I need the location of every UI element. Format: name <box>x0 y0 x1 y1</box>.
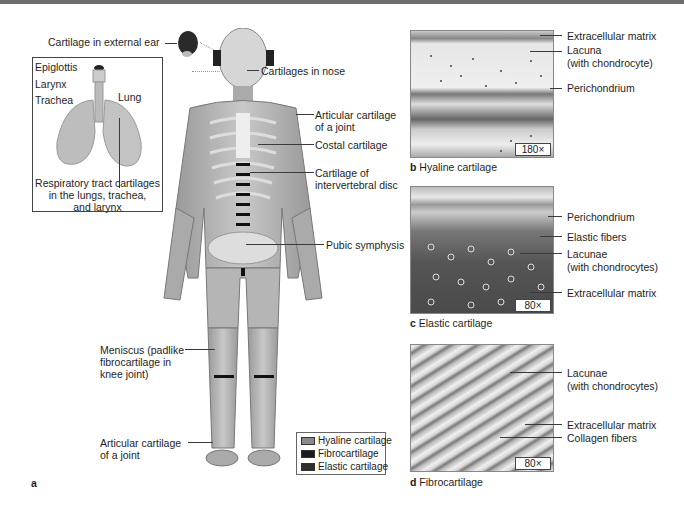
label-elastic-lacunae: Lacunae <box>567 248 607 261</box>
label-epiglottis: Epiglottis <box>35 61 78 74</box>
magnification-fibrocartilage: 80× <box>515 457 551 470</box>
micrograph-hyaline: 180× <box>410 30 554 158</box>
inset-caption-line2: in the lungs, trachea, <box>33 189 162 202</box>
caption-panel-c: c Elastic cartilage <box>410 317 492 329</box>
leader-hyaline-ecm <box>540 35 562 36</box>
leader-nose <box>247 70 259 71</box>
label-hyaline-perichondrium: Perichondrium <box>567 82 635 95</box>
inset-caption-line1: Respiratory tract cartilages <box>33 177 162 190</box>
leader-articular-upper <box>296 114 314 115</box>
label-larynx: Larynx <box>35 78 67 91</box>
micrograph-fibrocartilage: 80× <box>410 344 554 472</box>
caption-panel-b: b Hyaline cartilage <box>410 161 497 173</box>
legend-item-hyaline: Hyaline cartilage <box>301 435 392 447</box>
label-lung: Lung <box>118 91 141 104</box>
label-meniscus-3: knee joint) <box>100 368 148 381</box>
elastic-texture <box>411 187 554 314</box>
leader-articular-lower <box>188 442 213 443</box>
label-nose: Cartilages in nose <box>261 65 345 78</box>
leader-intervertebral <box>250 172 314 173</box>
label-elastic-ecm: Extracellular matrix <box>567 287 656 300</box>
label-articular-upper-2: of a joint <box>315 121 355 134</box>
leader-hyaline-lacuna <box>530 51 562 52</box>
swatch-elastic <box>301 463 315 471</box>
label-elastic-fibers: Elastic fibers <box>567 231 627 244</box>
label-elastic-lacunae-2: (with chondrocytes) <box>567 261 658 274</box>
label-hyaline-lacuna-2: (with chondrocyte) <box>567 57 653 70</box>
label-intervertebral-1: Cartilage of <box>315 167 369 180</box>
label-articular-lower-2: of a joint <box>100 449 140 462</box>
label-articular-upper-1: Articular cartilage <box>315 109 396 122</box>
inset-caption-line3: and larynx <box>33 201 162 214</box>
legend-item-elastic: Elastic cartilage <box>301 461 388 473</box>
label-fibro-collagen: Collagen fibers <box>567 432 637 445</box>
label-hyaline-ecm: Extracellular matrix <box>567 30 656 43</box>
caption-panel-d: d Fibrocartilage <box>410 476 483 488</box>
respiratory-inset: Epiglottis Larynx Trachea Lung Respirato… <box>32 57 163 212</box>
magnification-elastic: 80× <box>515 299 551 312</box>
micrograph-elastic: 80× <box>410 186 554 314</box>
leader-fibro-lacunae <box>510 372 562 373</box>
human-body-skeleton-illustration <box>150 28 350 473</box>
leader-elastic-perichondrium <box>548 216 562 217</box>
label-fibro-lacunae: Lacunae <box>567 367 607 380</box>
label-articular-lower-1: Articular cartilage <box>100 437 181 450</box>
leader-elastic-lacunae <box>520 253 562 254</box>
label-meniscus-1: Meniscus (padlike <box>100 344 184 357</box>
label-external-ear: Cartilage in external ear <box>48 36 159 49</box>
label-costal: Costal cartilage <box>315 139 387 152</box>
leader-pubic <box>246 244 324 245</box>
label-hyaline-lacuna: Lacuna <box>567 44 601 57</box>
legend-item-fibro: Fibrocartilage <box>301 448 379 460</box>
legend: Hyaline cartilage Fibrocartilage Elastic… <box>296 432 386 475</box>
panel-a-letter: a <box>31 477 37 489</box>
leader-fibro-collagen <box>500 437 562 438</box>
label-trachea: Trachea <box>35 94 73 107</box>
label-pubic: Pubic symphysis <box>326 239 404 252</box>
leader-costal <box>258 144 314 145</box>
label-meniscus-2: fibrocartilage in <box>100 356 171 369</box>
top-border <box>0 0 684 4</box>
magnification-hyaline: 180× <box>515 143 551 156</box>
leader-meniscus <box>185 349 215 350</box>
swatch-hyaline <box>301 437 315 445</box>
label-intervertebral-2: intervertebral disc <box>315 179 398 192</box>
leader-elastic-fibers <box>540 236 562 237</box>
leader-elastic-ecm <box>530 292 562 293</box>
swatch-fibro <box>301 450 315 458</box>
label-elastic-perichondrium: Perichondrium <box>567 211 635 224</box>
label-fibro-lacunae-2: (with chondrocytes) <box>567 380 658 393</box>
leader-fibro-ecm <box>525 424 562 425</box>
label-fibro-ecm: Extracellular matrix <box>567 419 656 432</box>
leader-hyaline-perichondrium <box>550 88 562 89</box>
